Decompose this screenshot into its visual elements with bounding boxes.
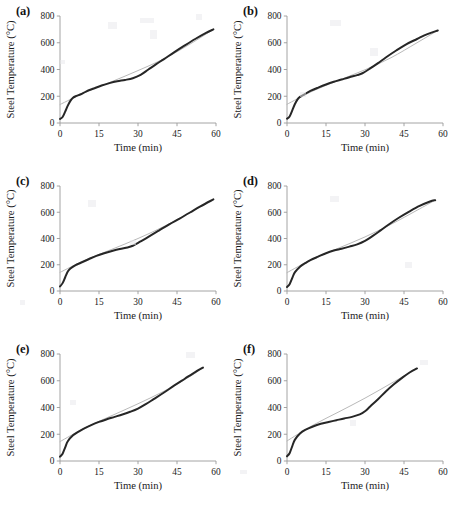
svg-text:0: 0 [58,297,63,307]
svg-text:Steel Temperature (°C): Steel Temperature (°C) [232,20,244,118]
panel-c: (c) 0200400600800015304560Time (min)Stee… [0,170,227,338]
svg-text:Time (min): Time (min) [341,480,390,492]
svg-text:400: 400 [267,403,281,413]
plot-d: 0200400600800015304560Time (min)Steel Te… [227,170,454,338]
svg-text:Time (min): Time (min) [114,480,163,492]
svg-text:200: 200 [40,260,54,270]
svg-text:30: 30 [360,129,370,139]
panel-a: (a) 0200400600800015304560Time (min)Stee… [0,0,227,170]
panel-b: (b) 0200400600800015304560Time (min)Stee… [227,0,454,170]
svg-text:400: 400 [40,234,54,244]
panel-d: (d) 0200400600800015304560Time (min)Stee… [227,170,454,338]
svg-text:200: 200 [267,430,281,440]
plot-b: 0200400600800015304560Time (min)Steel Te… [227,0,454,170]
svg-text:0: 0 [58,467,63,477]
svg-text:Steel Temperature (°C): Steel Temperature (°C) [5,20,17,118]
svg-text:60: 60 [211,129,221,139]
svg-text:0: 0 [277,286,282,296]
svg-text:800: 800 [267,11,281,21]
svg-text:45: 45 [172,467,182,477]
svg-text:60: 60 [211,467,221,477]
svg-text:0: 0 [285,467,290,477]
svg-text:200: 200 [267,260,281,270]
svg-text:800: 800 [267,181,281,191]
svg-text:15: 15 [321,129,331,139]
svg-text:15: 15 [321,297,331,307]
svg-text:200: 200 [40,92,54,102]
svg-text:0: 0 [58,129,63,139]
svg-text:30: 30 [360,297,370,307]
svg-text:0: 0 [277,118,282,128]
svg-text:600: 600 [40,208,54,218]
svg-text:800: 800 [267,349,281,359]
svg-text:60: 60 [211,297,221,307]
svg-text:400: 400 [267,65,281,75]
svg-text:15: 15 [321,467,331,477]
svg-text:0: 0 [50,286,55,296]
svg-text:Time (min): Time (min) [341,142,390,154]
svg-text:45: 45 [172,297,182,307]
svg-text:Steel Temperature (°C): Steel Temperature (°C) [5,358,17,456]
svg-text:30: 30 [133,129,143,139]
svg-text:Steel Temperature (°C): Steel Temperature (°C) [232,189,244,287]
panel-e: (e) 0200400600800015304560Time (min)Stee… [0,338,227,508]
svg-text:0: 0 [285,297,290,307]
plot-a: 0200400600800015304560Time (min)Steel Te… [0,0,227,170]
plot-e: 0200400600800015304560Time (min)Steel Te… [0,338,227,508]
svg-text:Time (min): Time (min) [114,310,163,322]
svg-text:200: 200 [40,430,54,440]
svg-text:600: 600 [267,38,281,48]
svg-text:600: 600 [40,376,54,386]
svg-text:600: 600 [267,208,281,218]
svg-text:600: 600 [267,376,281,386]
svg-text:0: 0 [50,118,55,128]
svg-text:15: 15 [94,297,104,307]
svg-text:45: 45 [399,297,409,307]
svg-text:Time (min): Time (min) [341,310,390,322]
svg-text:60: 60 [438,129,448,139]
svg-text:0: 0 [285,129,290,139]
svg-text:15: 15 [94,467,104,477]
svg-text:400: 400 [40,403,54,413]
svg-text:60: 60 [438,467,448,477]
svg-text:400: 400 [40,65,54,75]
svg-text:45: 45 [399,129,409,139]
svg-text:45: 45 [399,467,409,477]
figure-grid: (a) 0200400600800015304560Time (min)Stee… [0,0,454,508]
svg-text:Steel Temperature (°C): Steel Temperature (°C) [5,189,17,287]
svg-text:30: 30 [133,297,143,307]
svg-text:600: 600 [40,38,54,48]
svg-text:0: 0 [50,456,55,466]
plot-c: 0200400600800015304560Time (min)Steel Te… [0,170,227,338]
svg-text:15: 15 [94,129,104,139]
svg-text:60: 60 [438,297,448,307]
svg-text:200: 200 [267,92,281,102]
panel-f: (f) 0200400600800015304560Time (min)Stee… [227,338,454,508]
svg-text:30: 30 [133,467,143,477]
svg-text:30: 30 [360,467,370,477]
svg-text:400: 400 [267,234,281,244]
svg-text:Steel Temperature (°C): Steel Temperature (°C) [232,358,244,456]
svg-text:800: 800 [40,349,54,359]
svg-text:45: 45 [172,129,182,139]
svg-text:0: 0 [277,456,282,466]
svg-text:800: 800 [40,181,54,191]
plot-f: 0200400600800015304560Time (min)Steel Te… [227,338,454,508]
svg-text:Time (min): Time (min) [114,142,163,154]
svg-text:800: 800 [40,11,54,21]
